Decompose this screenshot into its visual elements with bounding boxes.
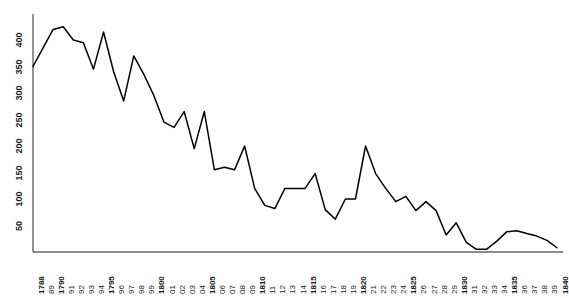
plot-area bbox=[0, 0, 569, 298]
data-series-line bbox=[33, 27, 557, 250]
line-chart: 50100150200250300350400 1788891790919293… bbox=[0, 0, 569, 298]
